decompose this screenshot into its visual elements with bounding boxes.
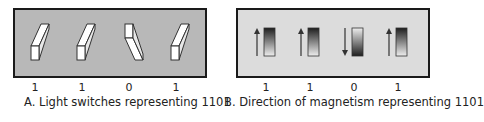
bit-label: 1	[260, 81, 272, 94]
arrow-down-icon	[342, 28, 348, 56]
bit-label: 1	[304, 81, 316, 94]
light-switch-up-icon	[171, 24, 189, 60]
light-switch-up-icon	[77, 24, 95, 60]
magnetism-panel	[236, 8, 430, 78]
caption-b: B. Direction of magnetism representing 1…	[224, 95, 484, 109]
bit-label: 1	[76, 81, 88, 94]
magnet-bar	[352, 28, 363, 56]
magnet-bar	[308, 28, 319, 56]
arrow-up-icon	[298, 28, 304, 56]
bit-label: 1	[170, 81, 182, 94]
light-switches-diagram	[15, 10, 205, 76]
magnet-bar	[264, 28, 275, 56]
bit-label: 1	[29, 81, 41, 94]
bit-label: 0	[348, 81, 360, 94]
bit-label: 1	[392, 81, 404, 94]
magnet-bar	[396, 28, 407, 56]
arrow-up-icon	[386, 28, 392, 56]
bit-label: 0	[123, 81, 135, 94]
arrow-up-icon	[254, 28, 260, 56]
light-switches-panel	[13, 8, 207, 78]
light-switch-down-icon	[125, 24, 143, 60]
light-switch-up-icon	[31, 24, 49, 60]
magnetism-diagram	[238, 10, 428, 76]
caption-a: A. Light switches representing 1101	[24, 95, 231, 109]
